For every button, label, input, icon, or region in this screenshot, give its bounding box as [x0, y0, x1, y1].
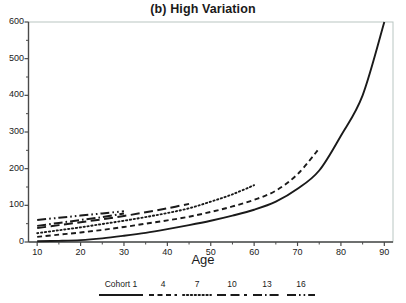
series-line-cohort-10 [37, 204, 189, 228]
legend-entry[interactable]: 10 [216, 279, 248, 299]
legend-entry[interactable]: Cohort 1 [98, 279, 144, 299]
legend-entry[interactable]: 7 [182, 279, 212, 299]
legend-swatch-cohort-13 [252, 291, 282, 299]
chart-page: (b) High Variation 0100200300400500600 1… [0, 0, 406, 303]
legend-label: 13 [252, 279, 282, 289]
y-tick-label: 0 [0, 236, 24, 246]
x-axis-label: Age [0, 252, 406, 267]
legend-swatch-cohort-16 [286, 291, 316, 299]
legend-entry[interactable]: 16 [286, 279, 316, 299]
y-tick-label: 200 [0, 163, 24, 173]
legend-swatch-cohort-7 [182, 291, 212, 299]
legend-label: 4 [148, 279, 178, 289]
y-tick-label: 500 [0, 53, 24, 63]
plot-frame [29, 22, 394, 242]
chart-legend: Cohort 147101316 [98, 279, 313, 301]
plot-area [0, 0, 406, 260]
legend-label: Cohort 1 [98, 279, 144, 289]
y-tick-label: 400 [0, 89, 24, 99]
legend-label: 10 [216, 279, 248, 289]
legend-swatch-cohort-10 [216, 291, 248, 299]
legend-label: 7 [182, 279, 212, 289]
legend-label: 16 [286, 279, 316, 289]
series-line-cohort-1 [37, 22, 384, 241]
legend-entry[interactable]: 4 [148, 279, 178, 299]
y-tick-label: 300 [0, 126, 24, 136]
legend-entry[interactable]: 13 [252, 279, 282, 299]
y-tick-label: 100 [0, 199, 24, 209]
series-line-cohort-7 [37, 185, 254, 233]
series-line-cohort-4 [37, 149, 319, 237]
y-tick-label: 600 [0, 16, 24, 26]
legend-swatch-cohort-1 [98, 291, 144, 299]
legend-swatch-cohort-4 [148, 291, 178, 299]
